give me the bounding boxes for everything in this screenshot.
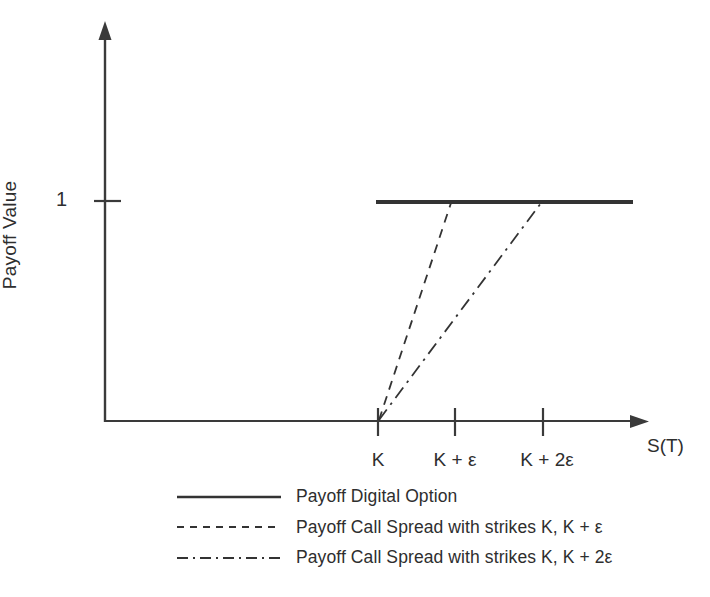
chart-plot-area (0, 0, 710, 597)
series-call-spread-k-keps (379, 203, 451, 420)
y-axis-label: Payoff Value (0, 175, 24, 295)
legend-label-call-spread-k-keps: Payoff Call Spread with strikes K, K + ε (296, 519, 603, 537)
y-tick-label-1: 1 (56, 189, 67, 209)
legend-label-call-spread-k-k2eps: Payoff Call Spread with strikes K, K + 2… (296, 549, 613, 567)
series-call-spread-k-k2eps (379, 203, 541, 420)
payoff-chart-figure: Payoff Value 1 K K + ε K + 2ε S(T) Payof… (0, 0, 710, 597)
x-tick-label-k: K (358, 450, 398, 469)
y-axis (99, 21, 112, 422)
x-tick-label-k-plus-2eps: K + 2ε (503, 450, 591, 469)
legend-label-payoff-digital-option: Payoff Digital Option (296, 488, 457, 506)
x-tick-label-k-plus-eps: K + ε (417, 450, 493, 469)
x-axis-label: S(T) (647, 436, 684, 455)
legend-swatches (177, 497, 281, 558)
